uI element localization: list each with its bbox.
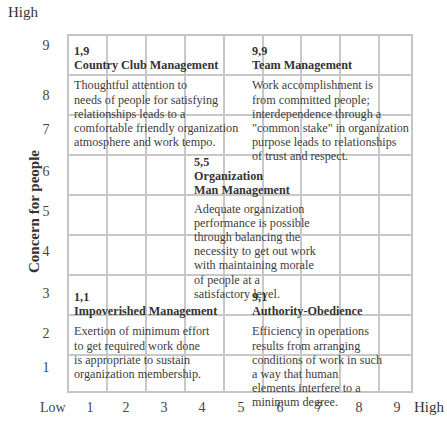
y-tick-8: 8 (36, 88, 56, 104)
style-authority-obedience: 9,1 Authority-Obedience Efficiency in op… (252, 290, 402, 410)
style-description: Exertion of minimum effort to get requir… (74, 324, 244, 381)
x-tick-1: 1 (80, 400, 100, 416)
style-team: 9,9 Team Management Work accomplishment … (252, 44, 417, 164)
y-tick-6: 6 (36, 164, 56, 180)
y-tick-1: 1 (36, 360, 56, 376)
style-code: 9,1 (252, 290, 402, 304)
y-tick-4: 4 (36, 244, 56, 260)
style-code: 9,9 (252, 44, 417, 58)
y-tick-2: 2 (36, 326, 56, 342)
style-organization-man: 5,5 Organization Man Management Adequate… (194, 155, 344, 301)
x-tick-7: 7 (309, 400, 329, 416)
x-axis-high-label: High (414, 399, 444, 416)
y-tick-7: 7 (36, 122, 56, 138)
style-title: Country Club Management (74, 58, 244, 72)
y-tick-9: 9 (36, 38, 56, 54)
style-description: Adequate organization performance is pos… (194, 202, 344, 301)
style-title: Team Management (252, 58, 417, 72)
y-axis-high-label: High (8, 4, 38, 21)
style-description: Efficiency in operations results from ar… (252, 324, 402, 409)
x-tick-6: 6 (270, 400, 290, 416)
x-tick-2: 2 (116, 400, 136, 416)
style-title: Impoverished Management (74, 304, 244, 318)
style-code: 5,5 (194, 155, 344, 169)
style-impoverished: 1,1 Impoverished Management Exertion of … (74, 290, 244, 381)
style-code: 1,1 (74, 290, 244, 304)
style-description: Work accomplishment is from committed pe… (252, 78, 417, 163)
x-tick-3: 3 (154, 400, 174, 416)
style-country-club: 1,9 Country Club Management Thoughtful a… (74, 44, 244, 149)
y-tick-5: 5 (36, 204, 56, 220)
x-tick-4: 4 (192, 400, 212, 416)
style-title: Organization Man Management (194, 169, 344, 197)
style-title: Authority-Obedience (252, 304, 402, 318)
x-tick-8: 8 (349, 400, 369, 416)
style-description: Thoughtful attention to needs of people … (74, 78, 244, 149)
style-code: 1,9 (74, 44, 244, 58)
y-tick-3: 3 (36, 286, 56, 302)
x-tick-5: 5 (231, 400, 251, 416)
x-tick-9: 9 (387, 400, 407, 416)
x-axis-low-label: Low (40, 400, 66, 416)
